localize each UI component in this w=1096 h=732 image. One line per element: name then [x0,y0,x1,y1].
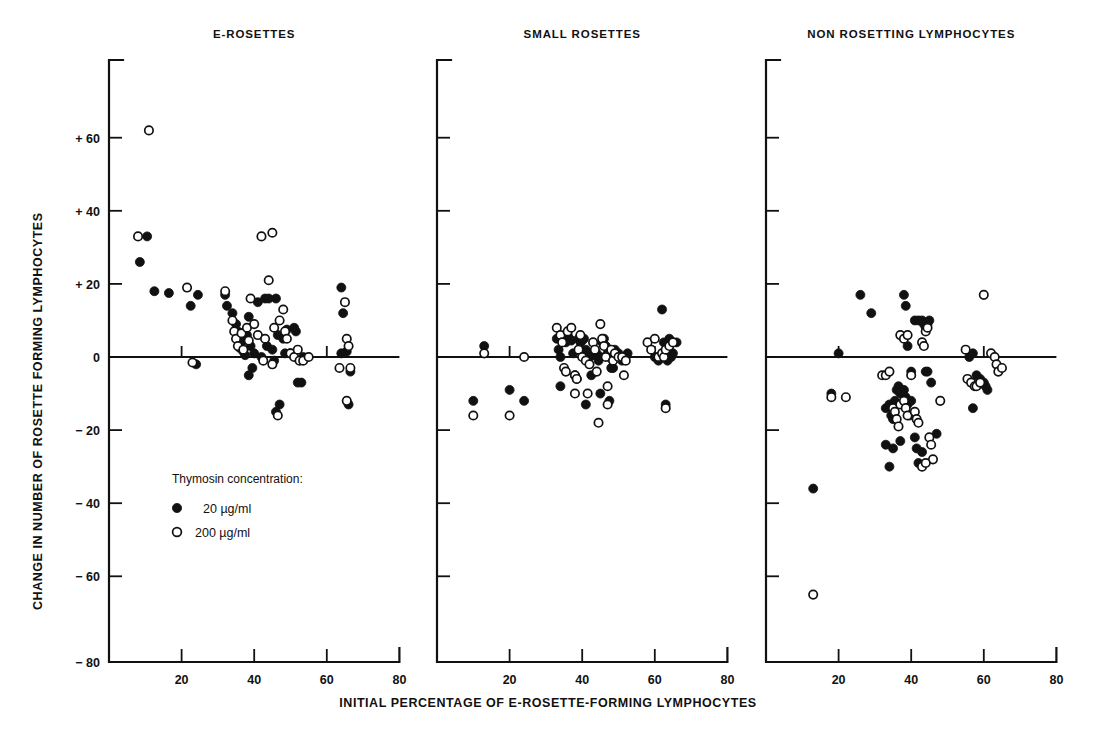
legend-marker-filled-circle [172,503,181,512]
x-tick-label: 20 [175,673,189,687]
data-point [596,389,605,398]
data-point [562,367,570,375]
data-point [135,257,144,266]
y-tick-label: − 60 [75,570,100,584]
data-point [894,422,902,430]
x-tick-label: 60 [977,673,991,687]
data-point [901,301,910,310]
data-point [294,345,302,353]
data-point [520,353,528,361]
data-point [910,433,919,442]
data-point [651,335,659,343]
data-point [903,331,911,339]
y-tick-label: + 40 [75,205,100,219]
data-point [250,320,258,328]
data-point [573,375,581,383]
axis-frame [109,60,399,662]
data-point [603,382,611,390]
data-point [337,283,346,292]
data-point [923,324,931,332]
y-tick-label: + 20 [75,278,100,292]
data-point [271,294,280,303]
x-tick-label: 60 [320,673,334,687]
data-point [567,324,575,332]
data-point [186,301,195,310]
x-tick-label: 20 [503,673,517,687]
data-point [583,389,591,397]
data-point [268,360,276,368]
data-point [571,389,579,397]
x-tick-label: 40 [904,673,918,687]
data-point [983,385,992,394]
x-tick-label: 80 [392,673,406,687]
data-point [239,345,247,353]
data-point [279,305,287,313]
data-point [221,287,229,295]
data-point [669,338,677,346]
data-point [842,393,850,401]
data-point [244,371,253,380]
data-point [827,393,835,401]
data-point [246,294,254,302]
scatter-figure: CHANGE IN NUMBER OF ROSETTE FORMING LYMP… [0,0,1096,732]
data-point [899,290,908,299]
data-point [885,367,893,375]
y-axis-title: CHANGE IN NUMBER OF ROSETTE FORMING LYMP… [31,212,45,610]
data-point [257,232,265,240]
series-open [809,291,1006,599]
data-point [914,419,922,427]
data-point [856,290,865,299]
data-point [228,316,236,324]
data-point [596,320,604,328]
data-point [346,364,354,372]
data-point [809,484,818,493]
data-point [291,327,300,336]
data-point [150,287,159,296]
data-point [558,338,566,346]
data-point [576,331,584,339]
x-axis-title: INITIAL PERCENTAGE OF E-ROSETTE-FORMING … [339,696,756,710]
data-point [245,336,253,344]
x-tick-label: 60 [648,673,662,687]
data-point [603,400,611,408]
data-point [867,309,876,318]
data-point [335,364,343,372]
data-point [889,444,898,453]
legend-label-0: 20 µg/ml [203,502,251,516]
data-point [193,290,202,299]
y-tick-label: − 20 [75,424,100,438]
panel-title: E-ROSETTES [213,28,295,40]
panel-title: SMALL ROSETTES [524,28,641,40]
data-point [143,232,152,241]
data-point [145,126,153,134]
data-point [885,462,894,471]
data-point [183,283,191,291]
data-point [658,305,667,314]
data-point [923,367,932,376]
data-point [480,349,488,357]
data-point [297,378,306,387]
data-point [922,459,930,467]
data-point [556,353,565,362]
y-tick-label: − 80 [75,656,100,670]
panels-group: E-ROSETTES+ 60+ 40+ 200− 20− 40− 60− 802… [75,28,1063,687]
data-point [585,360,593,368]
y-tick-label: 0 [93,351,100,365]
data-point [661,404,669,412]
axis-frame [766,60,1056,662]
data-point [581,400,590,409]
series-filled [809,290,992,493]
data-point [339,309,348,318]
x-tick-label: 40 [575,673,589,687]
data-point [283,335,291,343]
data-point [134,232,142,240]
data-point [341,298,349,306]
data-point [809,590,817,598]
data-point [556,382,565,391]
data-point [976,378,984,386]
x-tick-label: 80 [1049,673,1063,687]
legend-label-1: 200 µg/ml [195,526,250,540]
data-point [265,276,273,284]
data-point [520,396,529,405]
data-point [268,229,276,237]
